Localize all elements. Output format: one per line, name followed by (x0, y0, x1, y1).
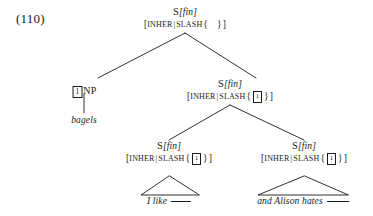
node-root-slash: SLASH (176, 20, 202, 29)
node-conjunct-right: S[fin] [INHER|SLASH{1}] (261, 140, 347, 165)
node-conjunct-left-bracket-close: ] (209, 153, 212, 163)
node-conjunct-right-brace-open: { (319, 153, 326, 163)
node-conjunct-right-brace-close: } (337, 153, 344, 163)
node-conjunct-left-feature-structure: [INHER|SLASH{1}] (126, 153, 212, 164)
node-conjunct-right-cat-feature: [fin] (298, 141, 316, 151)
node-conjunct-left-inher: INHER (129, 154, 154, 163)
node-conjunct-left-index-tag: 1 (192, 153, 201, 164)
node-conjunct-left: S[fin] [INHER|SLASH{1}] (126, 140, 212, 165)
node-conjunct-left-brace-close: } (202, 153, 209, 163)
np-filler-label: NP (83, 85, 96, 96)
figure-container: (110) S[fin] [INHER|SLASH{}] 1NP bagels … (0, 0, 373, 216)
node-conjunct-left-category: S[fin] (126, 140, 212, 152)
node-conjunct-left-brace-open: { (184, 153, 191, 163)
node-conjunct-right-bracket-close: ] (344, 153, 347, 163)
leaf-bagels: bagels (71, 115, 97, 125)
node-s-right-category: S[fin] (187, 78, 273, 90)
leaf-i-like-text: I like (147, 196, 167, 206)
branch-s-to-conj-right (230, 105, 304, 140)
triangle-left-conjunct (141, 176, 199, 195)
leaf-and-alison-hates: and Alison hates (257, 196, 349, 206)
node-root-brace-open: { (202, 19, 209, 29)
node-conjunct-right-index-tag: 1 (327, 153, 336, 164)
node-root-cat-feature: [fin] (179, 7, 197, 17)
node-s-right-slash: SLASH (219, 92, 245, 101)
node-conjunct-left-cat-feature: [fin] (163, 141, 181, 151)
node-conjunct-left-slash: SLASH (158, 154, 184, 163)
node-root-bracket-close: ] (223, 19, 226, 29)
node-s-right-inher: INHER (190, 92, 215, 101)
node-root: S[fin] [INHER|SLASH{}] (144, 6, 226, 31)
tree-branch-lines (0, 0, 373, 216)
node-root-inher: INHER (147, 20, 172, 29)
node-conjunct-right-inher: INHER (264, 154, 289, 163)
node-s-right-brace-open: { (245, 91, 252, 101)
node-conjunct-right-slash: SLASH (293, 154, 319, 163)
leaf-and-alison-hates-text: and Alison hates (257, 196, 323, 206)
node-s-right-feature-structure: [INHER|SLASH{1}] (187, 91, 273, 102)
np-filler-index-tag: 1 (73, 86, 83, 98)
triangle-right-conjunct (258, 176, 348, 195)
node-root-feature-structure: [INHER|SLASH{}] (144, 19, 226, 30)
node-s-right-brace-close: } (263, 91, 270, 101)
branch-root-to-s-right (185, 33, 256, 78)
node-np-filler: 1NP (72, 80, 97, 98)
leaf-i-like-gap (171, 201, 191, 202)
node-root-category: S[fin] (144, 6, 226, 18)
node-s-right-index-tag: 1 (253, 91, 262, 102)
node-s-right: S[fin] [INHER|SLASH{1}] (187, 78, 273, 103)
node-s-right-bracket-close: ] (270, 91, 273, 101)
leaf-i-like: I like (147, 196, 191, 206)
node-root-brace-close: } (216, 19, 223, 29)
node-s-right-cat-feature: [fin] (224, 79, 242, 89)
node-conjunct-right-feature-structure: [INHER|SLASH{1}] (261, 153, 347, 164)
branch-root-to-np (98, 33, 185, 78)
branch-s-to-conj-left (169, 105, 230, 140)
example-number: (110) (16, 11, 45, 27)
leaf-and-alison-hates-gap (327, 201, 349, 202)
node-conjunct-right-category: S[fin] (261, 140, 347, 152)
